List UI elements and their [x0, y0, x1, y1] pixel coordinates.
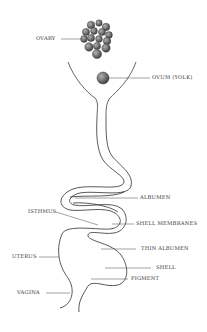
label-ovary: OVARY	[36, 36, 55, 41]
label-vagina: VAGINA	[17, 290, 40, 295]
ovary-cluster	[81, 20, 113, 59]
label-ovum: OVUM (YOLK)	[152, 75, 193, 80]
label-shell-membranes: SHELL MEMBRANES	[136, 221, 197, 226]
label-uterus: UTERUS	[12, 254, 37, 259]
infundibulum	[68, 62, 136, 118]
oviduct-tube	[59, 118, 132, 312]
label-albumen: ALBUMEN	[140, 195, 170, 200]
label-isthmus: ISTHMUS	[28, 209, 56, 214]
oviduct-diagram	[0, 0, 207, 332]
label-thin-albumen: THIN ALBUMEN	[141, 246, 189, 251]
label-shell: SHELL	[156, 265, 176, 270]
ovum	[97, 72, 109, 84]
label-pigment: PIGMENT	[131, 276, 159, 281]
